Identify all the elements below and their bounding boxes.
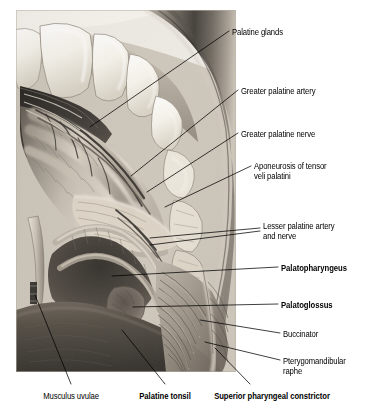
label-palatopharyngeus: Palatopharyngeus	[281, 264, 347, 274]
label-palatoglossus: Palatoglossus	[281, 301, 333, 311]
label-palatine-glands: Palatine glands	[232, 28, 283, 38]
label-aponeurosis-tensor-veli-palatini: Aponeurosis of tensor veli palatini	[254, 162, 327, 181]
label-palatine-tonsil: Palatine tonsil	[139, 392, 190, 402]
anatomy-illustration-artwork	[16, 10, 236, 372]
anatomy-illustration	[16, 10, 236, 372]
anatomy-plate: Palatine glandsGreater palatine arteryGr…	[0, 0, 373, 417]
label-greater-palatine-artery: Greater palatine artery	[241, 87, 315, 97]
label-lesser-palatine-artery-and-nerve: Lesser palatine artery and nerve	[263, 222, 335, 241]
label-pterygomandibular-raphe: Pterygomandibular raphe	[283, 357, 346, 376]
label-musculus-uvulae: Musculus uvulae	[43, 392, 99, 402]
label-greater-palatine-nerve: Greater palatine nerve	[241, 130, 315, 140]
label-superior-pharyngeal-constrictor: Superior pharyngeal constrictor	[214, 392, 330, 402]
label-buccinator: Buccinator	[283, 330, 318, 340]
